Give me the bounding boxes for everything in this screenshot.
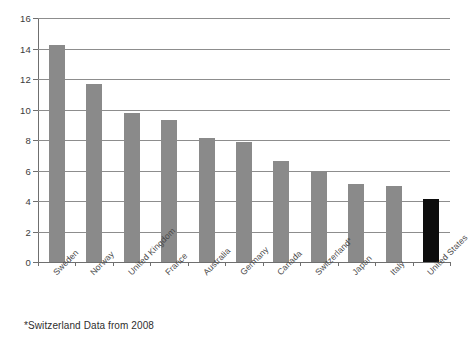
y-tick-label: 8 bbox=[0, 135, 31, 146]
y-tick-label: 4 bbox=[0, 196, 31, 207]
x-tick-mark bbox=[225, 262, 226, 266]
bar-australia bbox=[199, 138, 215, 262]
bar-germany bbox=[236, 142, 252, 262]
y-tick-label: 14 bbox=[0, 43, 31, 54]
bar-norway bbox=[86, 84, 102, 262]
bar-sweden bbox=[49, 45, 65, 262]
y-tick-label: 16 bbox=[0, 13, 31, 24]
bar-united-kingdom bbox=[124, 113, 140, 262]
x-tick-mark bbox=[113, 262, 114, 266]
bar-switzerland bbox=[311, 171, 327, 263]
y-tick-label: 2 bbox=[0, 226, 31, 237]
x-tick-mark bbox=[38, 262, 39, 266]
x-tick-mark bbox=[375, 262, 376, 266]
x-tick-mark bbox=[263, 262, 264, 266]
x-tick-mark bbox=[150, 262, 151, 266]
x-tick-mark bbox=[338, 262, 339, 266]
chart-footnote: *Switzerland Data from 2008 bbox=[24, 320, 154, 331]
x-tick-mark bbox=[450, 262, 451, 266]
bar-canada bbox=[273, 161, 289, 262]
y-tick-label: 10 bbox=[0, 104, 31, 115]
bar-series bbox=[38, 18, 450, 262]
bar-united-states bbox=[423, 199, 439, 262]
x-tick-mark bbox=[188, 262, 189, 266]
y-tick-label: 12 bbox=[0, 74, 31, 85]
x-tick-mark bbox=[300, 262, 301, 266]
x-tick-mark bbox=[75, 262, 76, 266]
y-tick-label: 6 bbox=[0, 165, 31, 176]
bar-chart: 0246810121416 SwedenNorwayUnited Kingdom… bbox=[0, 0, 472, 347]
bar-japan bbox=[348, 184, 364, 262]
x-tick-mark bbox=[413, 262, 414, 266]
x-axis-line bbox=[38, 262, 450, 263]
bar-italy bbox=[386, 186, 402, 262]
bar-france bbox=[161, 120, 177, 262]
y-tick-label: 0 bbox=[0, 257, 31, 268]
